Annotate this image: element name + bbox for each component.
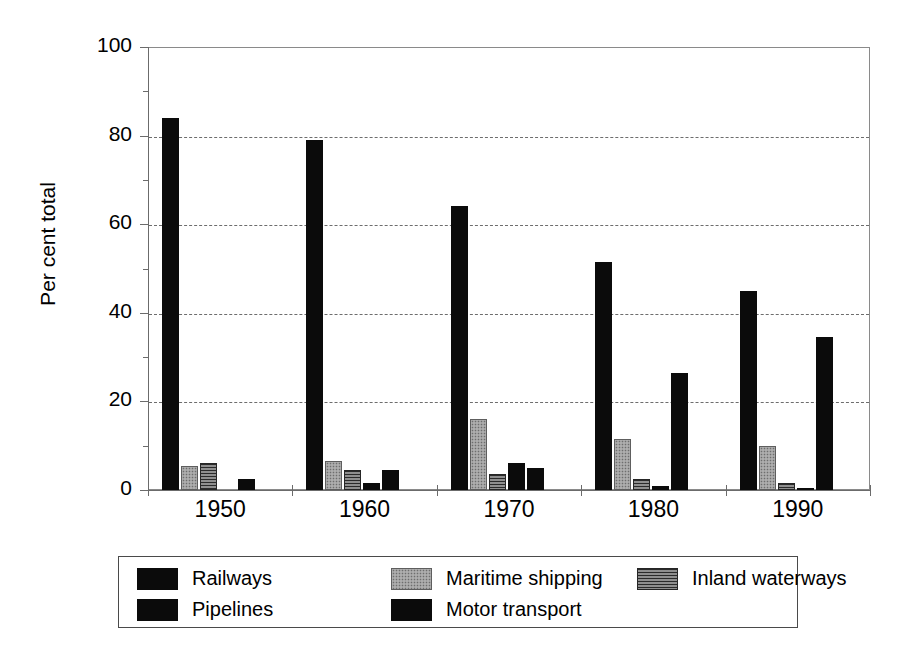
y-tick	[140, 401, 149, 402]
bar	[759, 446, 776, 490]
gridline	[149, 137, 869, 138]
bar	[633, 479, 650, 490]
legend-swatch-icon	[137, 599, 178, 621]
bar	[325, 461, 342, 490]
bar	[363, 483, 380, 490]
legend-item: Motor transport	[391, 594, 582, 625]
y-tick-label: 0	[60, 476, 132, 500]
y-tick-minor	[143, 269, 149, 270]
y-tick-label: 20	[60, 387, 132, 411]
y-tick-label: 40	[60, 299, 132, 323]
legend-item: Inland waterways	[637, 563, 847, 594]
gridline	[149, 402, 869, 403]
legend-swatch-icon	[391, 599, 432, 621]
legend-swatch-icon	[637, 568, 678, 590]
x-tick-label: 1950	[148, 496, 292, 523]
bar	[238, 479, 255, 490]
bar	[614, 439, 631, 490]
bar	[306, 140, 323, 490]
plot-area	[148, 47, 870, 490]
legend-swatch-icon	[137, 568, 178, 590]
legend-item: Railways	[137, 563, 272, 594]
bar	[595, 262, 612, 490]
x-tick	[726, 485, 727, 496]
y-axis-title: Per cent total	[36, 134, 60, 354]
x-tick-label: 1980	[581, 496, 725, 523]
y-tick	[140, 136, 149, 137]
legend-label: Maritime shipping	[446, 567, 603, 590]
chart-legend: RailwaysMaritime shippingInland waterway…	[118, 556, 798, 628]
bar	[740, 291, 757, 490]
legend-item: Pipelines	[137, 594, 273, 625]
y-tick-label: 60	[60, 210, 132, 234]
bar	[162, 118, 179, 490]
bar-chart: Per cent total 020406080100 195019601970…	[0, 0, 914, 540]
legend-swatch-icon	[391, 568, 432, 590]
bar	[816, 337, 833, 490]
x-tick-label: 1990	[726, 496, 870, 523]
bar	[344, 470, 361, 490]
y-tick-minor	[143, 357, 149, 358]
x-axis-line	[148, 490, 871, 491]
bar	[382, 470, 399, 490]
y-tick-label: 80	[60, 122, 132, 146]
y-tick-minor	[143, 91, 149, 92]
y-tick-label: 100	[60, 33, 132, 57]
bar	[671, 373, 688, 490]
x-tick-label: 1970	[437, 496, 581, 523]
y-tick	[140, 47, 149, 48]
y-tick	[140, 224, 149, 225]
bar	[200, 463, 217, 490]
gridline	[149, 225, 869, 226]
x-tick	[437, 485, 438, 496]
legend-label: Railways	[192, 567, 272, 590]
y-tick-minor	[143, 180, 149, 181]
x-tick	[870, 485, 871, 496]
bar	[778, 483, 795, 490]
legend-item: Maritime shipping	[391, 563, 603, 594]
x-tick	[148, 485, 149, 496]
legend-label: Motor transport	[446, 598, 582, 621]
gridline	[149, 314, 869, 315]
legend-label: Pipelines	[192, 598, 273, 621]
bar	[181, 466, 198, 490]
bar	[470, 419, 487, 490]
x-tick	[581, 485, 582, 496]
y-tick	[140, 313, 149, 314]
bar	[527, 468, 544, 490]
bar	[652, 486, 669, 490]
bar	[451, 206, 468, 490]
x-tick-label: 1960	[292, 496, 436, 523]
bar	[489, 474, 506, 490]
legend-label: Inland waterways	[692, 567, 847, 590]
bar	[508, 463, 525, 490]
bar	[797, 488, 814, 490]
x-tick	[292, 485, 293, 496]
y-tick-minor	[143, 446, 149, 447]
